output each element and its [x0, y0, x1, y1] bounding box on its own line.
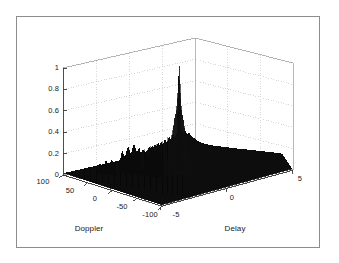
main-peak [165, 66, 193, 175]
surface-mesh [64, 66, 292, 205]
z-tick-label-0.4: 0.4 [48, 128, 59, 136]
z-tick-label-1: 1 [55, 64, 59, 72]
z-tick-label-0: 0 [55, 171, 59, 179]
doppler-axis-label: Doppler [75, 225, 104, 233]
delay-tick-label-5: 5 [298, 175, 302, 183]
delay-axis-label: Delay [225, 225, 246, 233]
z-tick-label-0.8: 0.8 [48, 86, 59, 94]
delay-tick-label-0: 0 [230, 194, 234, 202]
delay-tick-label-neg5: -5 [173, 211, 180, 219]
doppler-tick-label-0: 0 [93, 195, 97, 203]
doppler-tick-label-100: 100 [37, 178, 50, 186]
z-tick-label-0.6: 0.6 [48, 107, 59, 115]
z-tick-label-0.2: 0.2 [48, 150, 59, 158]
doppler-tick-label-50: 50 [66, 187, 75, 195]
doppler-tick-label-neg100: -100 [142, 211, 157, 219]
figure-window: 1 0.8 0.6 0.4 0.2 0 100 50 0 -50 -100 -5… [0, 0, 339, 263]
doppler-tick-label-neg50: -50 [116, 203, 127, 211]
